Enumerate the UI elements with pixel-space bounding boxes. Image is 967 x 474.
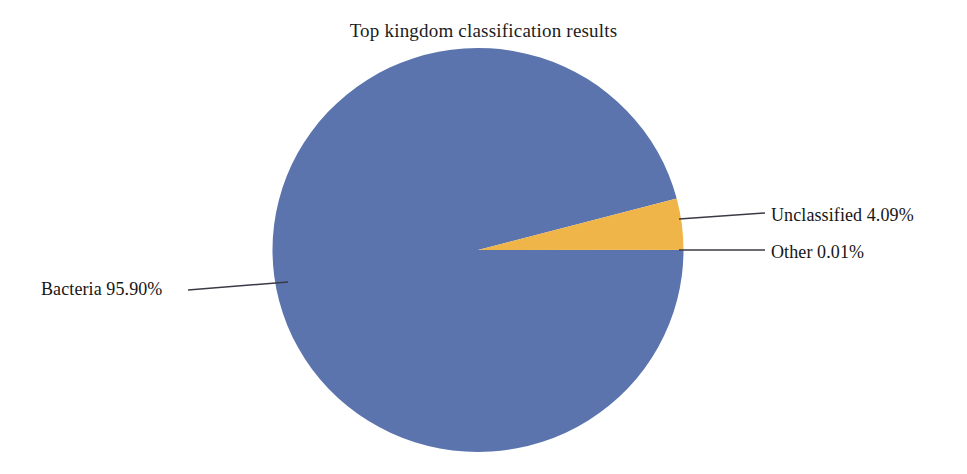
pie-label-bacteria: Bacteria 95.90% <box>41 279 162 300</box>
leader-line-bacteria <box>188 282 288 290</box>
pie-label-unclassified: Unclassified 4.09% <box>771 205 914 226</box>
pie-chart-canvas <box>0 0 967 474</box>
pie-label-other: Other 0.01% <box>771 242 864 263</box>
chart-title: Top kingdom classification results <box>0 20 967 42</box>
pie-chart-figure: Top kingdom classification results Bacte… <box>0 0 967 474</box>
pie-slice-bacteria[interactable] <box>273 48 684 452</box>
leader-line-unclassified <box>679 213 765 219</box>
